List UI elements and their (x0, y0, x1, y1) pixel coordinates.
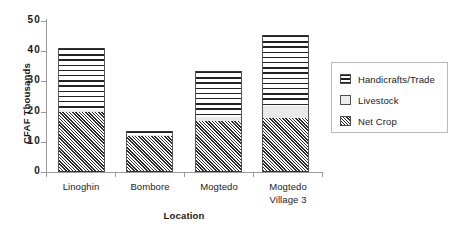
x-tick-1 (115, 172, 116, 177)
legend-label: Net Crop (358, 116, 397, 127)
x-tick-3 (253, 172, 254, 177)
catlabel-line: Mogtedo (240, 181, 336, 194)
legend: Handicrafts/Trade Livestock Net Crop (331, 62, 448, 133)
plot-area: 0 10 20 30 40 50 (46, 21, 322, 172)
bar-linoghin (58, 48, 105, 172)
y-tick-label-10: 10 (27, 135, 41, 146)
y-tick-label-20: 20 (27, 105, 41, 116)
legend-label: Livestock (358, 95, 399, 106)
legend-item-net-crop: Net Crop (340, 112, 447, 130)
segment-net-crop (262, 118, 309, 172)
y-tick-label-50: 50 (27, 14, 41, 25)
light-fill-swatch-icon (340, 95, 351, 105)
x-tick-2 (184, 172, 185, 177)
x-axis-title: Location (46, 210, 322, 221)
segment-handicrafts-trade (195, 71, 242, 117)
bar-mogtedo (195, 71, 242, 172)
x-tick-0 (46, 172, 47, 177)
segment-livestock (262, 106, 309, 118)
legend-item-livestock: Livestock (340, 91, 447, 109)
diagonal-hatch-swatch-icon (340, 116, 351, 126)
y-tick-label-40: 40 (27, 44, 41, 55)
y-tick-label-0: 0 (34, 165, 41, 176)
x-axis-label-mogtedo-village-3: Mogtedo Village 3 (240, 181, 336, 206)
bar-chart: CFAF Thousands 0 10 20 30 40 50 (0, 0, 454, 233)
legend-label: Handicrafts/Trade (358, 74, 435, 85)
y-tick-label-30: 30 (27, 74, 41, 85)
bar-bombore (126, 131, 173, 172)
segment-net-crop (58, 112, 105, 172)
segment-net-crop (126, 136, 173, 172)
segment-handicrafts-trade (58, 48, 105, 110)
x-tick-4 (322, 172, 323, 177)
segment-handicrafts-trade (262, 35, 309, 106)
segment-net-crop (195, 121, 242, 172)
horizontal-lines-swatch-icon (340, 74, 351, 84)
legend-item-handicrafts-trade: Handicrafts/Trade (340, 70, 447, 88)
bar-mogtedo-village-3 (262, 35, 309, 172)
catlabel-line: Village 3 (240, 194, 336, 207)
